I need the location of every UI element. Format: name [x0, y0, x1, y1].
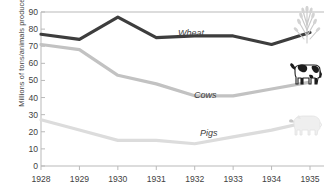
- series-line-cows: [41, 45, 310, 96]
- line-chart: Millions of tons/animals produced 010203…: [0, 0, 324, 194]
- plot-area: [0, 0, 324, 194]
- wheat-sheaf-icon: [292, 6, 322, 44]
- series-line-wheat: [41, 17, 310, 44]
- series-label-wheat: Wheat: [178, 28, 204, 38]
- series-label-pigs: Pigs: [200, 128, 218, 138]
- series-label-cows: Cows: [194, 90, 217, 100]
- cow-icon: [290, 58, 322, 86]
- series-line-pigs: [41, 120, 310, 144]
- pig-icon: [288, 112, 322, 138]
